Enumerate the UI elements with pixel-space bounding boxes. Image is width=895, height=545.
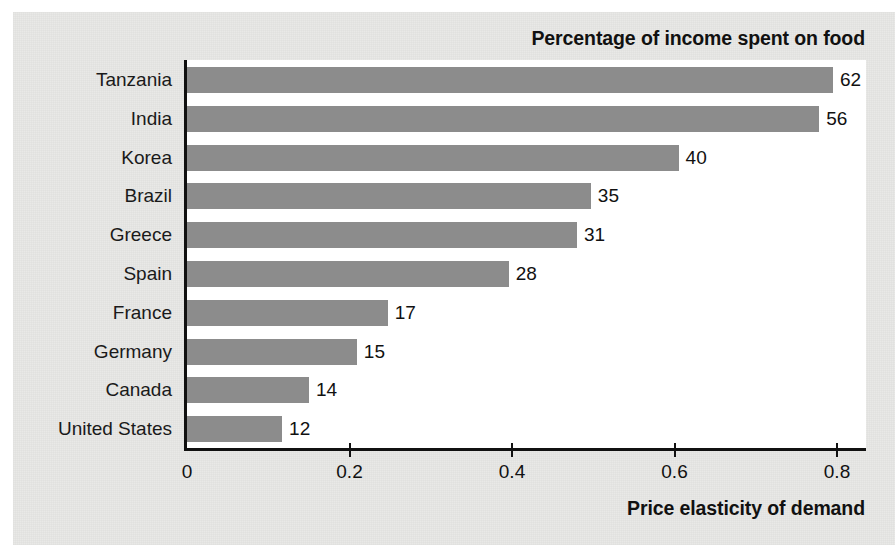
bar-value-label: 62	[840, 69, 861, 91]
bar-value-label: 14	[316, 379, 337, 401]
bar-row: France17	[0, 294, 895, 332]
bar-value-label: 31	[584, 224, 605, 246]
x-axis-tick	[511, 443, 513, 457]
bar-row: Canada14	[0, 371, 895, 409]
x-axis-line	[184, 448, 866, 451]
category-label: France	[113, 302, 172, 324]
x-axis-tick	[836, 443, 838, 457]
category-label: Canada	[105, 379, 172, 401]
chart-figure: Percentage of income spent on food Tanza…	[0, 0, 895, 545]
bar-row: India56	[0, 100, 895, 138]
bar	[187, 261, 509, 287]
bar	[187, 106, 819, 132]
category-label: Germany	[94, 341, 172, 363]
x-axis-tick	[349, 443, 351, 457]
bar-value-label: 40	[686, 147, 707, 169]
bar-row: Greece31	[0, 216, 895, 254]
bar-row: Brazil35	[0, 177, 895, 215]
x-axis-tick	[674, 443, 676, 457]
bar-value-label: 15	[364, 341, 385, 363]
category-label: Brazil	[124, 185, 172, 207]
bar-value-label: 28	[516, 263, 537, 285]
x-axis-tick-label: 0.4	[499, 461, 525, 483]
bar	[187, 222, 577, 248]
category-label: Greece	[110, 224, 172, 246]
category-label: Korea	[121, 147, 172, 169]
bar-row: Tanzania62	[0, 61, 895, 99]
bar-row: Korea40	[0, 139, 895, 177]
bar-value-label: 17	[395, 302, 416, 324]
category-label: Tanzania	[96, 69, 172, 91]
bar-value-label: 12	[289, 418, 310, 440]
bar	[187, 145, 679, 171]
chart-title: Percentage of income spent on food	[531, 27, 865, 50]
bar-row: Spain28	[0, 255, 895, 293]
bar-row: Germany15	[0, 333, 895, 371]
bar	[187, 183, 591, 209]
bar	[187, 377, 309, 403]
x-axis-tick-label: 0	[182, 461, 193, 483]
bar	[187, 67, 833, 93]
x-axis-tick-label: 0.2	[336, 461, 362, 483]
bar	[187, 416, 282, 442]
category-label: United States	[58, 418, 172, 440]
bar-value-label: 35	[598, 185, 619, 207]
x-axis-tick-label: 0.6	[661, 461, 687, 483]
x-axis-title: Price elasticity of demand	[627, 497, 865, 520]
bar	[187, 339, 357, 365]
bar-row: United States12	[0, 410, 895, 448]
bar-value-label: 56	[826, 108, 847, 130]
category-label: India	[131, 108, 172, 130]
bar	[187, 300, 388, 326]
x-axis-tick-label: 0.8	[824, 461, 850, 483]
category-label: Spain	[123, 263, 172, 285]
